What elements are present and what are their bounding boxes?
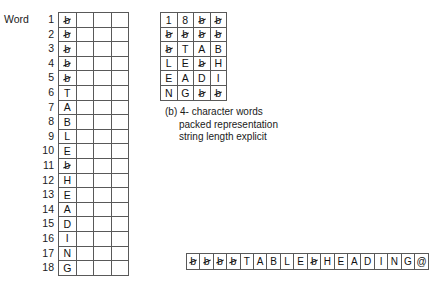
word-cell (111, 261, 129, 276)
word-cell (76, 217, 94, 232)
string-cell: H (321, 254, 334, 270)
cell-character: T (64, 87, 70, 99)
packed-cell: T (177, 42, 194, 57)
string-cell: I (374, 254, 387, 270)
string-cell: L (280, 254, 293, 270)
blank-symbol: b (64, 44, 70, 55)
blank-symbol: b (64, 73, 70, 84)
word-cell (94, 158, 112, 173)
row-number: 6 (26, 85, 54, 100)
word-cell (76, 27, 94, 42)
word-cell (76, 144, 94, 159)
row-number: 12 (26, 173, 54, 188)
string-cell: D (361, 254, 374, 270)
row-number: 2 (26, 27, 54, 42)
word-cell: E (59, 188, 77, 203)
cell-character: A (64, 203, 71, 215)
table-row: b (59, 158, 129, 173)
word-cell (76, 173, 94, 188)
word-cell (111, 144, 129, 159)
word-cell (94, 173, 112, 188)
word-cell (94, 231, 112, 246)
cell-character: N (63, 247, 71, 259)
cell-character: B (270, 256, 277, 267)
cell-character: B (215, 43, 222, 55)
string-cell: b (307, 254, 320, 270)
word-cell (111, 100, 129, 115)
packed-table: 18bbbbbbbTABLEbHEADINGbb (160, 12, 227, 101)
table-row: E (59, 188, 129, 203)
word-cell (94, 13, 112, 28)
table-row: b (59, 42, 129, 57)
blank-symbol: b (64, 15, 70, 26)
string-cell: N (388, 254, 401, 270)
word-cell (111, 217, 129, 232)
word-cell (111, 246, 129, 261)
blank-symbol: b (64, 58, 70, 69)
word-cell (94, 71, 112, 86)
table-row: bbbb (161, 27, 227, 42)
packed-cell: b (210, 13, 227, 28)
word-cell (76, 188, 94, 203)
packed-cell: H (210, 56, 227, 71)
cell-character: I (380, 256, 383, 267)
word-cell (111, 13, 129, 28)
word-cell: T (59, 85, 77, 100)
table-row: A (59, 100, 129, 115)
caption-line-1: (b) 4- character words (165, 106, 278, 119)
word-cell (111, 115, 129, 130)
word-cell (94, 217, 112, 232)
figure-caption: (b) 4- character words packed representa… (165, 106, 278, 144)
table-row: b (59, 56, 129, 71)
packed-cell: b (177, 27, 194, 42)
packed-cell: b (194, 56, 211, 71)
cell-character: T (182, 43, 188, 55)
blank-symbol: b (199, 29, 205, 40)
word-cell (76, 56, 94, 71)
string-cell: A (253, 254, 266, 270)
blank-symbol: b (311, 256, 317, 267)
row-number: 18 (26, 260, 54, 275)
cell-character: A (182, 72, 189, 84)
cell-character: E (182, 57, 189, 69)
cell-character: A (351, 256, 358, 267)
table-row: E (59, 144, 129, 159)
table-row: G (59, 261, 129, 276)
cell-character: I (217, 72, 220, 84)
word-cell (94, 188, 112, 203)
blank-symbol: b (215, 29, 221, 40)
word-cell (111, 173, 129, 188)
packed-cell: B (210, 42, 227, 57)
blank-symbol: b (204, 256, 210, 267)
word-cell: H (59, 173, 77, 188)
row-number: 3 (26, 41, 54, 56)
word-cell (111, 202, 129, 217)
caption-line-2: packed representation (165, 119, 278, 132)
word-cell (111, 85, 129, 100)
string-cell: E (294, 254, 307, 270)
string-strip-body: bbbbTABLEbHEADING@ (187, 254, 429, 270)
blank-symbol: b (166, 29, 172, 40)
row-number: 5 (26, 70, 54, 85)
row-number: 15 (26, 216, 54, 231)
word-cell: b (59, 158, 77, 173)
word-cell (94, 129, 112, 144)
string-cell: G (401, 254, 415, 270)
word-cell: b (59, 42, 77, 57)
table-row: 18bb (161, 13, 227, 28)
row-number: 8 (26, 114, 54, 129)
row-number-column: 123456789101112131415161718 (26, 12, 54, 275)
cell-character: T (244, 256, 250, 267)
cell-character: I (66, 232, 69, 244)
packed-table-body: 18bbbbbbbTABLEbHEADINGbb (161, 13, 227, 101)
cell-character: G (404, 256, 412, 267)
word-cell (94, 27, 112, 42)
word-cell (94, 85, 112, 100)
row-number: 11 (26, 158, 54, 173)
word-cell (76, 158, 94, 173)
row-number: 14 (26, 202, 54, 217)
string-cell: b (213, 254, 226, 270)
cell-character: B (64, 116, 71, 128)
row-number: 4 (26, 56, 54, 71)
packed-cell: b (194, 85, 211, 100)
